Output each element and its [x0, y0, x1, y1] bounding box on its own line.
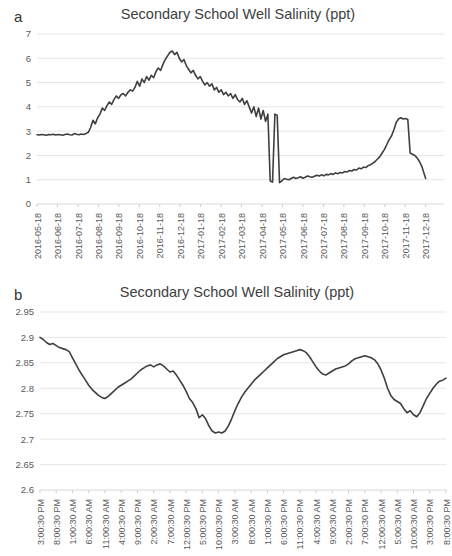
- y-axis-tick-label: 2.8: [21, 383, 34, 394]
- x-axis-tick-label: 2016-05-18: [33, 213, 43, 259]
- x-axis-tick-label: 8:00:30 PM: [52, 499, 62, 545]
- x-axis-tick-label: 1:00:30 PM: [263, 499, 273, 545]
- x-axis-tick-label: 9:00:30 AM: [328, 499, 338, 545]
- x-axis-tick-label: 2017-03-18: [237, 213, 247, 259]
- x-axis-tick-label: 2017-09-18: [360, 213, 370, 259]
- x-axis-tick-label: 7:00:30 PM: [360, 499, 370, 545]
- x-axis-tick-label: 3:00:30 PM: [36, 499, 46, 545]
- line-chart-b: 2.62.652.72.752.82.852.92.953:00:30 PM8:…: [0, 304, 452, 554]
- x-axis-tick-label: 8:00:30 AM: [247, 499, 257, 545]
- y-axis-tick-label: 2.75: [16, 408, 35, 419]
- x-axis-tick-label: 5:00:30 PM: [198, 499, 208, 545]
- data-series-line: [40, 337, 446, 433]
- x-axis-tick-label: 3:00:30 PM: [425, 499, 435, 545]
- x-axis-tick-label: 2017-01-18: [196, 213, 206, 259]
- plot-area-b: 2.62.652.72.752.82.852.92.953:00:30 PM8:…: [0, 304, 452, 554]
- x-axis-tick-label: 11:00:30 AM: [101, 499, 111, 549]
- x-axis-tick-label: 2:00:30 AM: [149, 499, 159, 545]
- chart-title-b: Secondary School Well Salinity (ppt): [0, 284, 452, 300]
- x-axis-tick-label: 2016-09-18: [114, 213, 124, 259]
- x-axis-tick-label: 2017-05-18: [278, 213, 288, 259]
- x-axis-tick-label: 12:00:30 PM: [182, 499, 192, 550]
- chart-title-a: Secondary School Well Salinity (ppt): [0, 6, 452, 22]
- x-axis-tick-label: 8:00:30 PM: [442, 499, 452, 545]
- x-axis-tick-label: 12:00:30 AM: [377, 499, 387, 550]
- x-axis-tick-label: 2017-06-18: [299, 213, 309, 259]
- x-axis-tick-label: 10:00:30 PM: [214, 499, 224, 550]
- y-axis-tick-label: 2.6: [21, 484, 34, 495]
- y-axis-tick-label: 2: [26, 150, 31, 161]
- y-axis-tick-label: 1: [26, 174, 31, 185]
- x-axis-tick-label: 2017-07-18: [319, 213, 329, 259]
- chart-panel-a: a Secondary School Well Salinity (ppt) 0…: [0, 0, 452, 278]
- chart-panel-b: b Secondary School Well Salinity (ppt) 2…: [0, 278, 452, 556]
- y-axis-tick-label: 5: [26, 77, 31, 88]
- x-axis-tick-label: 4:00:30 PM: [117, 499, 127, 545]
- y-axis-tick-label: 4: [26, 101, 31, 112]
- y-axis-tick-label: 2.85: [16, 357, 35, 368]
- x-axis-tick-label: 2017-10-18: [380, 213, 390, 259]
- x-axis-tick-label: 3:00:30 AM: [230, 499, 240, 545]
- y-axis-tick-label: 7: [26, 28, 31, 39]
- x-axis-tick-label: 4:00:30 AM: [312, 499, 322, 545]
- x-axis-tick-label: 2017-11-18: [401, 213, 411, 258]
- x-axis-tick-label: 2017-12-18: [421, 213, 431, 259]
- x-axis-tick-label: 2016-08-18: [94, 213, 104, 259]
- x-axis-tick-label: 5:00:30 AM: [393, 499, 403, 545]
- data-series-line: [37, 51, 426, 183]
- y-axis-tick-label: 2.9: [21, 332, 34, 343]
- y-axis-tick-label: 2.65: [16, 459, 35, 470]
- x-axis-tick-label: 2016-12-18: [176, 213, 186, 259]
- x-axis-tick-label: 7:00:30 AM: [166, 499, 176, 545]
- x-axis-tick-label: 6:00:30 PM: [279, 499, 289, 545]
- x-axis-tick-label: 2017-04-18: [258, 213, 268, 259]
- x-axis-tick-label: 11:00:30 PM: [295, 499, 305, 549]
- x-axis-tick-label: 9:00:30 PM: [133, 499, 143, 545]
- x-axis-tick-label: 10:00:30 AM: [409, 499, 419, 550]
- x-axis-tick-label: 2:00:30 PM: [344, 499, 354, 545]
- y-axis-tick-label: 2.95: [16, 306, 35, 317]
- line-chart-a: 012345672016-05-182016-06-182016-07-1820…: [0, 26, 452, 276]
- y-axis-tick-label: 3: [26, 126, 31, 137]
- x-axis-tick-label: 2016-11-18: [155, 213, 165, 258]
- y-axis-tick-label: 6: [26, 53, 31, 64]
- y-axis-tick-label: 0: [26, 198, 31, 209]
- x-axis-tick-label: 2017-02-18: [217, 213, 227, 259]
- x-axis-tick-label: 2016-07-18: [74, 213, 84, 259]
- plot-area-a: 012345672016-05-182016-06-182016-07-1820…: [0, 26, 452, 276]
- y-axis-tick-label: 2.7: [21, 434, 34, 445]
- x-axis-tick-label: 2016-10-18: [135, 213, 145, 259]
- x-axis-tick-label: 1:00:30 AM: [68, 499, 78, 545]
- x-axis-tick-label: 6:00:30 AM: [84, 499, 94, 545]
- x-axis-tick-label: 2017-08-18: [339, 213, 349, 259]
- x-axis-tick-label: 2016-06-18: [53, 213, 63, 259]
